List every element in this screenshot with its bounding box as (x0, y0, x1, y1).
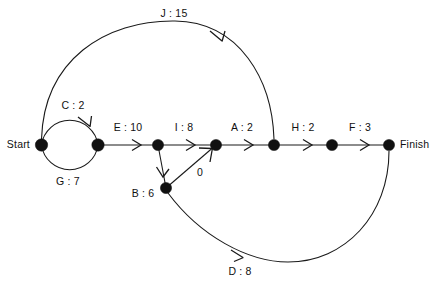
start-node[interactable] (35, 139, 47, 151)
edge-G-path (42, 145, 99, 170)
edge-label-E: E : 10 (114, 122, 143, 133)
edge-C-path (42, 120, 99, 145)
edge-label-H: H : 2 (291, 122, 314, 133)
node-6[interactable] (326, 139, 337, 150)
node-b[interactable] (160, 182, 171, 193)
edge-zero-path (166, 145, 216, 188)
diagram-graph (0, 0, 443, 288)
terminal-label-start: Start (7, 139, 30, 150)
node-5[interactable] (268, 139, 279, 150)
edge-label-zero: 0 (197, 167, 203, 178)
edge-label-D: D : 8 (228, 266, 251, 277)
diagram-canvas: J : 15 C : 2 E : 10 I : 8 A : 2 H : 2 F … (0, 0, 443, 288)
edge-label-F: F : 3 (349, 122, 371, 133)
terminal-label-finish: Finish (400, 139, 429, 150)
edge-B-path (158, 145, 166, 188)
edge-label-J: J : 15 (161, 8, 188, 19)
edge-label-G: G : 7 (56, 176, 80, 187)
node-2[interactable] (92, 139, 104, 151)
node-3[interactable] (152, 139, 163, 150)
edge-label-C: C : 2 (61, 100, 84, 111)
edge-J-arrowhead (210, 31, 225, 42)
edge-C-arrowhead (78, 116, 92, 127)
edge-label-A: A : 2 (231, 122, 253, 133)
finish-node[interactable] (383, 139, 394, 150)
edge-label-I: I : 8 (175, 122, 194, 133)
edge-label-B: B : 6 (132, 188, 155, 199)
node-4[interactable] (210, 139, 221, 150)
